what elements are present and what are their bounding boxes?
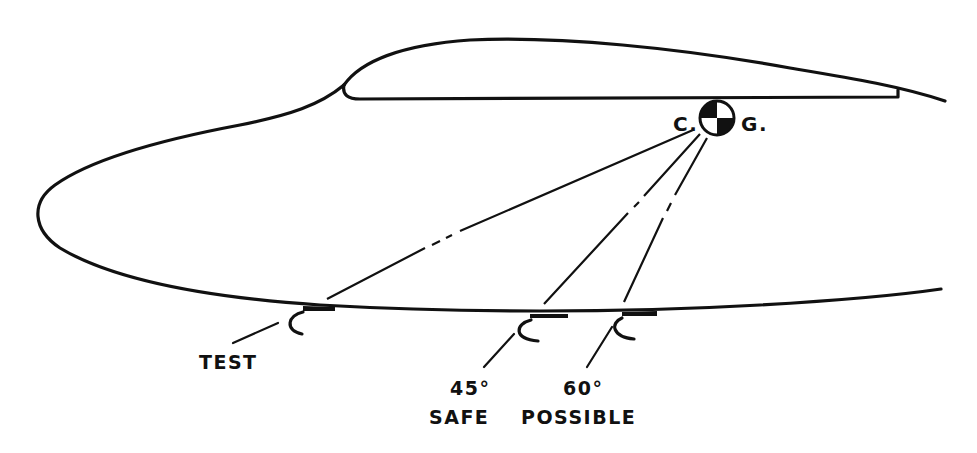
position-mark-45 [530, 314, 568, 318]
observer-icon-test [290, 312, 303, 334]
label-test: TEST [199, 351, 258, 373]
leader-line-test [233, 323, 278, 343]
cg-label-right: G. [741, 112, 768, 136]
label-angle-60: 60° [563, 377, 603, 399]
observer-icon-45 [519, 320, 538, 341]
center-of-gravity-icon [700, 101, 734, 135]
observer-icon-60 [615, 318, 634, 339]
diagram-canvas: C. G. TEST 45° SAFE 60° POSSIBLE [0, 0, 977, 453]
label-possible: POSSIBLE [521, 406, 636, 428]
leader-line-45 [484, 334, 514, 367]
canopy-base-line [344, 85, 898, 99]
sightline-45 [544, 134, 700, 304]
position-mark-60 [622, 311, 657, 316]
fuselage-upper-outline [38, 85, 941, 311]
leader-line-60 [587, 327, 612, 367]
label-safe: SAFE [429, 406, 489, 428]
cg-label-left: C. [673, 112, 698, 136]
sightline-60 [624, 138, 707, 302]
canopy-outline [344, 39, 945, 101]
label-angle-45: 45° [450, 377, 490, 399]
